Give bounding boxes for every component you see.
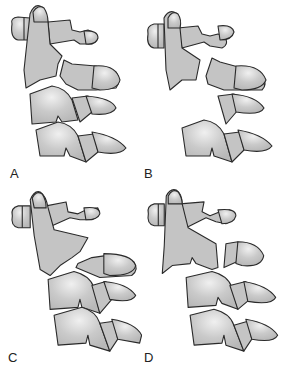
vertebrae-illustration-a [0, 0, 142, 186]
panel-label-a: A [10, 166, 19, 181]
vertebrae-illustration-b [142, 0, 284, 186]
panel-b: B [142, 0, 284, 186]
vertebrae-illustration-c [0, 186, 142, 372]
panel-label-d: D [144, 350, 153, 365]
vertebrae-illustration-d [142, 186, 284, 372]
panel-c: C [0, 186, 142, 372]
panel-label-c: C [8, 350, 17, 365]
panel-a: A [0, 0, 142, 186]
panel-d: D [142, 186, 284, 372]
panel-label-b: B [144, 166, 153, 181]
